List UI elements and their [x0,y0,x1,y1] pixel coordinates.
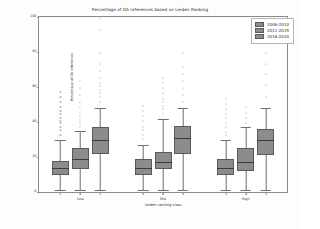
median-line [217,168,234,169]
box-rect [155,152,172,170]
flier-point [265,74,266,75]
flier-point [245,117,246,118]
box-tick-mark [100,192,101,195]
y-tick-mark [37,17,39,18]
whisker-cap [260,108,271,109]
legend-swatch-icon [255,28,264,33]
flier-point [143,121,144,122]
flier-point [80,102,81,103]
y-tick-label: 60 [32,85,36,89]
flier-point [80,119,81,120]
flier-point [100,77,101,78]
median-line [72,159,89,160]
y-tick-label: 80 [32,50,36,54]
flier-point [100,96,101,97]
flier-point [245,107,246,108]
flier-point [225,103,226,104]
x-tick-label-high: High [242,197,250,201]
legend: 2006-20102011-20152016-2020 [251,18,294,44]
plot-area: 020406080100LowMidHigh [39,17,287,192]
flier-point [162,114,163,115]
flier-point [60,130,61,131]
legend-item-2006-2010[interactable]: 2006-2010 [255,22,289,27]
median-line [237,162,254,163]
flier-point [265,96,266,97]
whisker-cap [158,190,169,191]
flier-point [60,107,61,108]
flier-point [100,30,101,31]
box-tick-mark [143,192,144,195]
flier-point [162,82,163,83]
flier-point [162,88,163,89]
box-tick-mark [80,192,81,195]
flier-point [225,114,226,115]
flier-point [60,96,61,97]
flier-point [80,95,81,96]
legend-label: 2006-2010 [267,22,289,27]
flier-point [143,138,144,139]
box-rect [237,148,254,171]
whisker-cap [178,190,189,191]
flier-point [143,110,144,111]
whisker-cap [55,140,66,141]
y-tick-mark [37,122,39,123]
y-tick-label: 40 [32,120,36,124]
flier-point [182,74,183,75]
median-line [257,140,274,141]
whisker-cap [178,108,189,109]
flier-point [60,117,61,118]
whisker-cap [220,140,231,141]
flier-point [265,53,266,54]
flier-point [60,91,61,92]
flier-point [162,109,163,110]
flier-point [100,86,101,87]
legend-swatch-icon [255,34,264,39]
whisker-cap [240,127,251,128]
flier-point [225,131,226,132]
box-tick-mark [163,192,164,195]
box-tick-mark [225,192,226,195]
box-tick-mark [60,192,61,195]
flier-point [225,98,226,99]
flier-point [100,18,101,19]
whisker-cap [95,190,106,191]
flier-point [100,82,101,83]
y-tick-mark [37,192,39,193]
legend-label: 2011-2015 [267,28,289,33]
median-line [135,168,152,169]
flier-point [80,126,81,127]
whisker-cap [95,108,106,109]
whisker-cap [260,190,271,191]
flier-point [162,102,163,103]
median-line [174,138,191,139]
flier-point [100,93,101,94]
flier-point [60,110,61,111]
flier-point [60,135,61,136]
flier-point [225,126,226,127]
flier-point [80,112,81,113]
flier-point [100,102,101,103]
legend-item-2016-2020[interactable]: 2016-2020 [255,34,289,39]
y-tick-label: 100 [30,15,36,19]
y-tick-mark [37,52,39,53]
box-tick-mark [183,192,184,195]
flier-point [100,89,101,90]
legend-item-2011-2015[interactable]: 2011-2015 [255,28,289,33]
whisker-cap [240,190,251,191]
flier-point [60,102,61,103]
flier-point [100,70,101,71]
flier-point [80,123,81,124]
whisker-cap [75,131,86,132]
flier-point [60,123,61,124]
median-line [155,162,172,163]
whisker-cap [138,145,149,146]
y-tick-label: 20 [32,155,36,159]
box-rect [257,129,274,155]
flier-point [162,93,163,94]
flier-point [80,116,81,117]
flier-point [182,67,183,68]
flier-point [182,88,183,89]
y-tick-mark [37,157,39,158]
flier-point [60,126,61,127]
flier-point [80,107,81,108]
